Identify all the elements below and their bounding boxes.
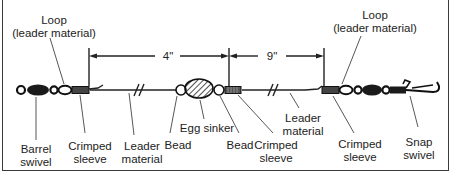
label-loop-left-line2: (leader material) [12, 27, 96, 40]
crimped-sleeve-left [72, 87, 89, 94]
label-snap-swivel-line2: swivel [399, 149, 439, 162]
label-leader-left-line1: Leader [118, 140, 166, 153]
dimension-label-4in: 4" [157, 50, 179, 63]
loop-right [340, 86, 353, 94]
label-loop-left-line1: Loop [12, 14, 96, 27]
label-leader-right-line2: material [279, 125, 327, 138]
tag-end-left [89, 85, 103, 89]
loop-left [59, 86, 72, 94]
label-bead-left: Bead [163, 139, 193, 152]
label-crimped-sleeve-mid-line1: Crimped [251, 139, 301, 152]
bead-right [214, 85, 224, 95]
label-leader-left-line2: material [118, 153, 166, 166]
tag-end-right [305, 86, 322, 90]
crimped-sleeve-right [322, 87, 339, 94]
label-leader-right-line1: Leader [279, 112, 327, 125]
label-crimped-sleeve-middle: Crimped sleeve [251, 139, 301, 165]
crimped-sleeve-middle [225, 87, 241, 94]
snap-swivel [390, 80, 439, 94]
label-crimped-sleeve-left: Crimped sleeve [65, 140, 115, 166]
label-barrel-swivel: Barrel swivel [16, 143, 56, 169]
label-snap-swivel-line1: Snap [399, 136, 439, 149]
label-crimped-sleeve-left-line1: Crimped [65, 140, 115, 153]
label-loop-left: Loop (leader material) [12, 14, 96, 40]
label-crimped-sleeve-right: Crimped sleeve [335, 138, 385, 164]
label-crimped-sleeve-right-line1: Crimped [335, 138, 385, 151]
label-barrel-swivel-line2: swivel [16, 156, 56, 169]
label-loop-right-line1: Loop [333, 9, 417, 22]
label-loop-right-line2: (leader material) [333, 22, 417, 35]
label-egg-sinker: Egg sinker [177, 122, 237, 135]
egg-sinker [185, 79, 213, 98]
dimension-label-9in: 9" [260, 50, 284, 63]
label-leader-material-left: Leader material [118, 140, 166, 166]
barrel-swivel-left [17, 85, 58, 96]
label-snap-swivel: Snap swivel [399, 136, 439, 162]
label-crimped-sleeve-right-line2: sleeve [335, 151, 385, 164]
label-barrel-swivel-line1: Barrel [16, 143, 56, 156]
barrel-swivel-right [354, 85, 389, 96]
label-crimped-sleeve-mid-line2: sleeve [251, 152, 301, 165]
label-leader-material-right: Leader material [279, 112, 327, 138]
label-loop-right: Loop (leader material) [333, 9, 417, 35]
label-crimped-sleeve-left-line2: sleeve [65, 153, 115, 166]
